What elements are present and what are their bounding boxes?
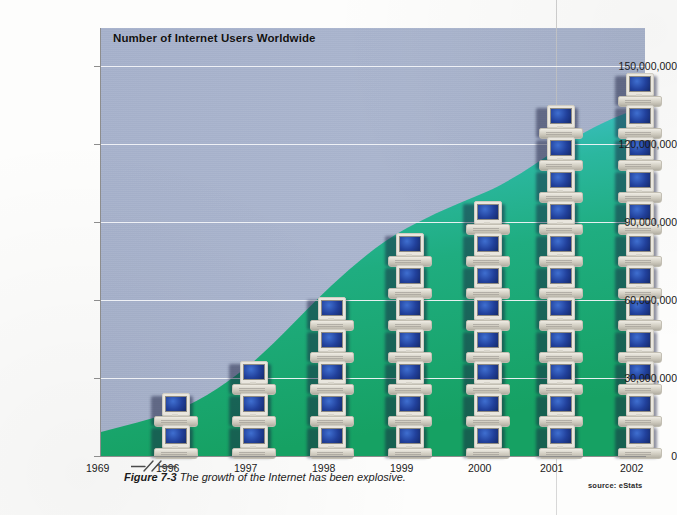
pictogram-stack-2000 xyxy=(466,201,510,457)
desktop-computer-icon xyxy=(618,169,662,202)
y-tick-label-0: 0 xyxy=(581,450,677,462)
figure-caption-text: The growth of the Internet has been expl… xyxy=(180,471,406,483)
desktop-computer-icon xyxy=(466,297,510,330)
y-tick-mark-30000000 xyxy=(94,378,100,379)
figure-internet-users: Number of Internet Users Worldwide 150,0… xyxy=(0,0,677,515)
y-axis-line xyxy=(100,28,101,457)
desktop-computer-icon xyxy=(466,265,510,298)
desktop-computer-icon xyxy=(466,361,510,394)
figure-number: Figure 7-3 xyxy=(124,471,177,483)
pictogram-stack-2001 xyxy=(539,105,583,457)
y-tick-mark-60000000 xyxy=(94,300,100,301)
desktop-computer-icon xyxy=(539,233,583,266)
desktop-computer-icon xyxy=(539,361,583,394)
source-note: source: eStats xyxy=(588,481,643,490)
figure-caption: Figure 7-3 The growth of the Internet ha… xyxy=(124,471,406,483)
y-tick-mark-90000000 xyxy=(94,222,100,223)
pictogram-stack-2002 xyxy=(618,73,662,457)
y-tick-label-30000000: 30,000,000 xyxy=(581,372,677,384)
desktop-computer-icon xyxy=(618,233,662,266)
desktop-computer-icon xyxy=(388,393,432,426)
x-tick-label-2002: 2002 xyxy=(620,462,643,474)
desktop-computer-icon xyxy=(466,201,510,234)
desktop-computer-icon xyxy=(618,329,662,362)
desktop-computer-icon xyxy=(539,169,583,202)
desktop-computer-icon xyxy=(539,137,583,170)
chart-title: Number of Internet Users Worldwide xyxy=(113,32,316,44)
desktop-computer-icon xyxy=(539,297,583,330)
desktop-computer-icon xyxy=(232,393,276,426)
pictogram-stack-1996 xyxy=(154,393,198,457)
y-tick-mark-120000000 xyxy=(94,144,100,145)
desktop-computer-icon xyxy=(310,425,354,458)
y-tick-mark-150000000 xyxy=(94,66,100,67)
y-tick-label-150000000: 150,000,000 xyxy=(581,60,677,72)
gridline-150000000 xyxy=(101,66,645,67)
desktop-computer-icon xyxy=(232,425,276,458)
desktop-computer-icon xyxy=(539,425,583,458)
x-tick-label-2000: 2000 xyxy=(468,462,491,474)
desktop-computer-icon xyxy=(466,393,510,426)
desktop-computer-icon xyxy=(310,297,354,330)
desktop-computer-icon xyxy=(539,265,583,298)
desktop-computer-icon xyxy=(618,393,662,426)
desktop-computer-icon xyxy=(154,393,198,426)
desktop-computer-icon xyxy=(154,425,198,458)
desktop-computer-icon xyxy=(388,329,432,362)
x-axis-line xyxy=(100,456,646,457)
desktop-computer-icon xyxy=(539,393,583,426)
desktop-computer-icon xyxy=(310,393,354,426)
pictogram-stack-1997 xyxy=(232,361,276,457)
desktop-computer-icon xyxy=(310,329,354,362)
desktop-computer-icon xyxy=(539,201,583,234)
y-tick-label-60000000: 60,000,000 xyxy=(581,294,677,306)
desktop-computer-icon xyxy=(310,361,354,394)
desktop-computer-icon xyxy=(388,233,432,266)
desktop-computer-icon xyxy=(466,233,510,266)
y-tick-mark-0 xyxy=(94,456,100,457)
desktop-computer-icon xyxy=(618,105,662,138)
pictogram-stack-1999 xyxy=(388,233,432,457)
desktop-computer-icon xyxy=(466,329,510,362)
x-tick-label-2001: 2001 xyxy=(540,462,563,474)
desktop-computer-icon xyxy=(388,265,432,298)
desktop-computer-icon xyxy=(539,329,583,362)
desktop-computer-icon xyxy=(388,425,432,458)
desktop-computer-icon xyxy=(618,73,662,106)
desktop-computer-icon xyxy=(388,297,432,330)
desktop-computer-icon xyxy=(466,425,510,458)
pictogram-stack-1998 xyxy=(310,297,354,457)
y-tick-label-120000000: 120,000,000 xyxy=(581,138,677,150)
x-tick-label-1969: 1969 xyxy=(86,462,109,474)
desktop-computer-icon xyxy=(232,361,276,394)
y-tick-label-90000000: 90,000,000 xyxy=(581,216,677,228)
desktop-computer-icon xyxy=(539,105,583,138)
desktop-computer-icon xyxy=(388,361,432,394)
